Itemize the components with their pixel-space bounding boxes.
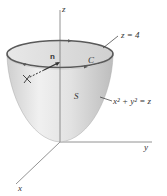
- curve-label: C: [88, 56, 94, 65]
- equation-label: x² + y² = z: [113, 97, 151, 106]
- z-axis-label: z: [62, 5, 66, 14]
- y-axis-label: y: [144, 143, 148, 152]
- surface-label: S: [74, 92, 79, 101]
- plane-label: z = 4: [121, 31, 140, 40]
- plane-leader: [103, 36, 118, 48]
- x-axis: [16, 142, 60, 184]
- normal-label: n: [50, 53, 55, 61]
- x-axis-label: x: [18, 184, 22, 193]
